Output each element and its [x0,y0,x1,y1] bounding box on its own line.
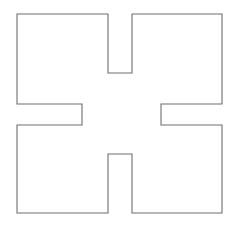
cross-shape-drawing [0,0,240,238]
figure-canvas [0,0,240,238]
cross-polygon-outline [17,14,222,213]
